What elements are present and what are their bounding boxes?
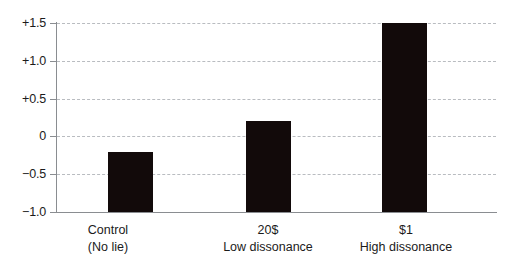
y-tick-0-5 bbox=[50, 99, 57, 100]
x-axis-label-control-line2: (No lie) bbox=[70, 239, 146, 256]
y-tick-1-0 bbox=[50, 61, 57, 62]
x-axis-label-20-dollars-line2: Low dissonance bbox=[205, 239, 331, 256]
y-tick-neg-0-5 bbox=[50, 174, 57, 175]
gridline-0-5 bbox=[57, 99, 496, 100]
y-tick-neg-1-0 bbox=[50, 212, 57, 213]
x-axis-line bbox=[56, 212, 497, 213]
x-axis-label-1-dollar: $1 High dissonance bbox=[341, 222, 471, 256]
y-axis-label-1-0: +1.0 bbox=[2, 54, 46, 68]
x-axis-label-control: Control (No lie) bbox=[70, 222, 146, 256]
gridline-1-0 bbox=[57, 61, 496, 62]
y-axis-label-neg-1-0: −1.0 bbox=[2, 205, 46, 219]
bar-chart: +1.5 +1.0 +0.5 0 −0.5 −1.0 Control (No l… bbox=[0, 0, 506, 258]
gridline-1-5 bbox=[57, 23, 496, 24]
y-tick-zero bbox=[50, 136, 57, 137]
y-axis-label-neg-0-5: −0.5 bbox=[2, 167, 46, 181]
y-axis-label-zero: 0 bbox=[2, 129, 46, 143]
y-tick-1-5 bbox=[50, 23, 57, 24]
x-axis-label-20-dollars: 20$ Low dissonance bbox=[205, 222, 331, 256]
x-axis-label-control-line1: Control bbox=[70, 222, 146, 239]
bar-control bbox=[108, 152, 153, 212]
plot-area bbox=[57, 23, 496, 212]
y-axis-label-1-5: +1.5 bbox=[2, 16, 46, 30]
y-axis-line bbox=[56, 22, 57, 213]
x-axis-label-1-dollar-line2: High dissonance bbox=[341, 239, 471, 256]
bar-1-dollar bbox=[382, 23, 427, 212]
x-axis-label-1-dollar-line1: $1 bbox=[341, 222, 471, 239]
y-axis-label-0-5: +0.5 bbox=[2, 92, 46, 106]
bar-20-dollars bbox=[246, 121, 291, 212]
x-axis-label-20-dollars-line1: 20$ bbox=[205, 222, 331, 239]
